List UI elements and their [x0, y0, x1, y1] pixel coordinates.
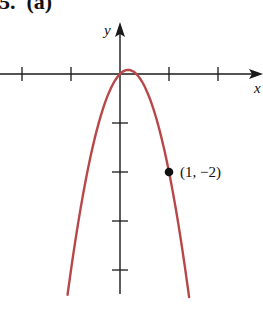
point-annotation: (1, −2) [165, 164, 221, 181]
point-marker-icon [165, 168, 174, 177]
point-label: (1, −2) [180, 164, 221, 181]
axes [0, 22, 263, 294]
x-axis-label: x [253, 80, 261, 96]
y-axis-label: y [102, 22, 111, 38]
parabola-curve [68, 70, 190, 297]
parabola-plot: (1, −2) x y [0, 0, 263, 310]
parabola-path [68, 70, 190, 297]
